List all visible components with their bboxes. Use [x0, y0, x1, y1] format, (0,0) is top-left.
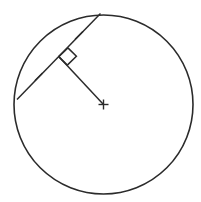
chord-tick-upper	[75, 32, 83, 40]
geometry-canvas	[0, 0, 201, 202]
chord-tick-lower	[35, 73, 43, 81]
right-angle-marker-leg-lower	[59, 57, 68, 66]
right-angle-marker-icon	[67, 48, 76, 65]
right-angle-marker-leg-upper	[59, 48, 68, 57]
geometry-diagram	[0, 0, 201, 202]
